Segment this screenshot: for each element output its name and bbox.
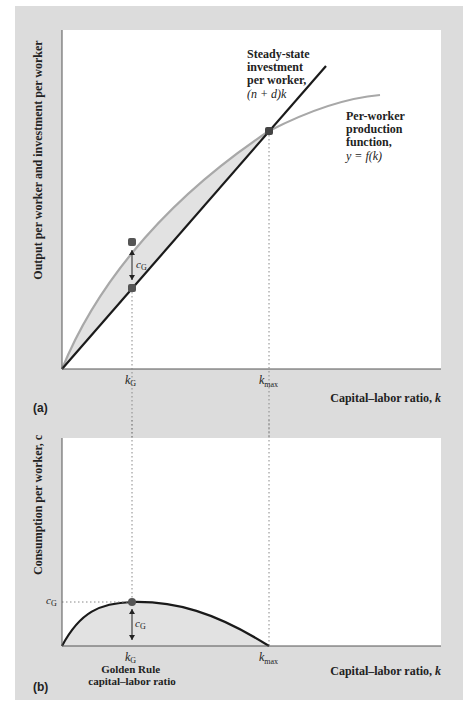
kmax-tick-b: kmax bbox=[259, 650, 278, 666]
y-axis-label-a: Output per worker and investment per wor… bbox=[31, 40, 45, 280]
golden-rule-label: Golden Rule capital–labor ratio bbox=[88, 663, 176, 687]
x-axis-label-a: Capital–labor ratio, k bbox=[330, 391, 441, 405]
kG-tick-a: kG bbox=[125, 373, 136, 388]
panel-tag-b: (b) bbox=[33, 680, 48, 694]
investment-formula: (n + d)k bbox=[247, 87, 287, 101]
x-axis-label-b: Capital–labor ratio, k bbox=[330, 664, 441, 678]
y-axis-label-b: Consumption per worker, c bbox=[31, 434, 45, 575]
production-point-kG bbox=[128, 238, 136, 246]
production-formula: y = f(k) bbox=[345, 149, 382, 163]
investment-line-label: Steady-state investment per worker, bbox=[247, 47, 313, 87]
intersection-point-kmax bbox=[265, 127, 273, 135]
golden-rule-point bbox=[128, 598, 136, 606]
cG-tick-b: cG bbox=[46, 594, 57, 608]
investment-point-kG bbox=[128, 284, 136, 292]
panel-tag-a: (a) bbox=[33, 401, 48, 415]
golden-rule-figure: cG Steady-state investment per worker, (… bbox=[0, 0, 471, 713]
